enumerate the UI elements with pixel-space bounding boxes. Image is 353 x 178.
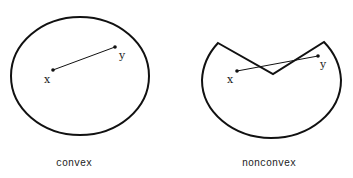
convex-set-outline xyxy=(11,17,149,135)
convex-segment-xy xyxy=(53,47,115,70)
nonconvex-figure: x y nonconvex xyxy=(202,42,341,169)
nonconvex-label-y: y xyxy=(319,58,327,71)
convex-point-y xyxy=(113,45,117,49)
convex-caption: convex xyxy=(56,158,92,169)
nonconvex-segment-xy xyxy=(237,56,318,71)
convexity-diagram: x y convex x y nonconvex xyxy=(0,0,353,178)
nonconvex-caption: nonconvex xyxy=(242,158,296,169)
convex-figure: x y convex xyxy=(11,17,149,169)
nonconvex-label-x: x xyxy=(227,73,234,86)
convex-label-x: x xyxy=(44,73,51,86)
nonconvex-point-x xyxy=(235,69,239,73)
convex-point-x xyxy=(51,68,55,72)
convex-label-y: y xyxy=(118,49,126,62)
nonconvex-set-outline xyxy=(202,42,341,138)
